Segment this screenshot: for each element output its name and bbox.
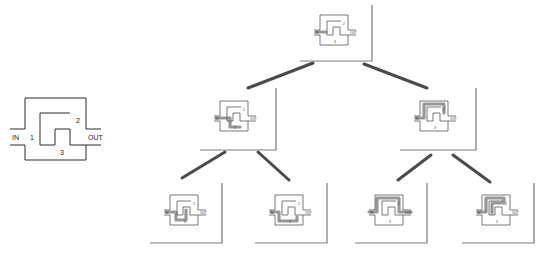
mini-label-out: OUT [512,211,519,215]
mini-label-path-3: 3 [334,40,336,44]
mini-label-path-2: 2 [193,202,195,206]
tree-edge [453,155,490,182]
mini-label-out: OUT [405,211,412,215]
mini-circuit: IN23OUT [164,195,207,225]
mini-label-out: OUT [200,211,207,215]
mini-label-out: OUT [450,117,457,121]
tree-node-root: IN23OUT [300,5,372,61]
node-panel-frame [300,5,372,61]
mini-label-out: OUT [350,31,357,35]
tree-edge [248,63,313,88]
node-panel-frame [355,183,427,243]
tree-edge [258,152,289,180]
node-panel-frame [255,183,327,243]
mini-outer-top-wall [164,195,206,210]
mini-label-path-2: 2 [398,202,400,206]
mini-outer-top-wall [269,195,311,210]
tree-edge [364,64,427,88]
mini-label-path-3: 3 [434,126,436,130]
mini-label-path-2: 2 [505,202,507,206]
mini-inner-wall [282,201,303,215]
mini-label-path-2: 2 [243,108,245,112]
tree-node-l1-left: IN23OUT [200,88,276,150]
tree-node-l2-d: IN23OUT [462,183,534,243]
tree-nodes: IN23OUTIN23OUTIN23OUTIN23OUTIN23OUTIN23O… [150,5,534,243]
reference-label-path-1: 1 [30,134,34,141]
tree-edge [182,152,225,178]
tree-node-l2-b: IN23OUT [255,183,327,243]
reference-label-in: IN [12,134,19,141]
mini-label-path-3: 3 [389,220,391,224]
tree-node-l2-c: IN23OUT [355,183,427,243]
mini-outer-top-wall [314,15,356,30]
mini-label-path-2: 2 [343,22,345,26]
mini-label-path-3: 3 [184,220,186,224]
mini-circuit: IN23OUT [269,195,312,225]
tree-node-l1-right: IN23OUT [400,88,476,150]
mini-circuit: IN23OUT [476,195,519,225]
diagram-canvas: IN 1 2 3 OUT IN23OUTIN23OUTIN23OUTIN23OU… [0,0,545,255]
mini-circuit: IN23OUT [369,195,412,225]
reference-label-path-2: 2 [76,117,80,124]
mini-circuit: IN23OUT [314,15,357,45]
mini-outer-top-wall [214,101,256,116]
tree-node-l2-a: IN23OUT [150,183,222,243]
mini-circuit: IN23OUT [414,101,457,131]
mini-inner-wall [327,21,348,35]
mini-label-path-3: 3 [234,126,236,130]
mini-label-out: OUT [305,211,312,215]
mini-circuit: IN23OUT [214,101,257,131]
node-panel-frame [462,183,534,243]
reference-label-path-3: 3 [60,149,64,156]
node-panel-frame [400,88,476,150]
reference-outer-bottom-wall [10,145,101,160]
tree-edges [182,63,490,182]
mini-label-out: OUT [250,117,257,121]
tree-edge [398,155,431,180]
mini-label-path-2: 2 [443,108,445,112]
reference-label-out: OUT [88,134,104,141]
reference-circuit: IN 1 2 3 OUT [10,98,104,160]
node-panel-frame [200,88,276,150]
mini-label-path-2: 2 [298,202,300,206]
mini-label-path-3: 3 [496,220,498,224]
mini-label-path-3: 3 [289,220,291,224]
